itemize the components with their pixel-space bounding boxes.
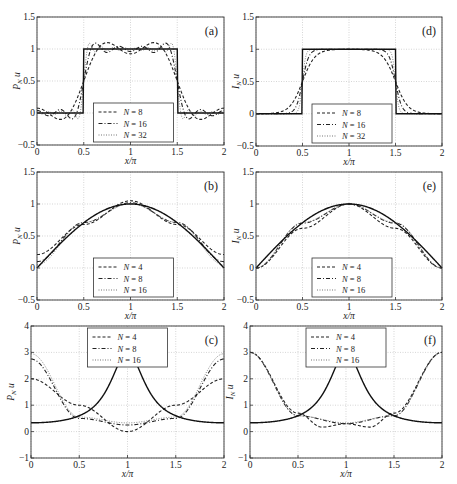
x-tick-label: 1.5 bbox=[171, 147, 183, 157]
x-tick-label: 2 bbox=[222, 302, 227, 312]
panel-label: (c) bbox=[205, 333, 218, 347]
figure: 00.511.52−0.500.511.5x/πPN u(a)N = 8N = … bbox=[0, 0, 457, 484]
x-tick-label: 2 bbox=[440, 302, 445, 312]
y-tick-label: 0.5 bbox=[23, 76, 35, 86]
legend-entry: N = 16 bbox=[341, 285, 365, 295]
legend-entry: N = 4 bbox=[335, 332, 356, 342]
legend-entry: N = 8 bbox=[123, 274, 143, 284]
panel-label: (b) bbox=[204, 179, 218, 193]
y-axis-label: PN u bbox=[6, 383, 18, 402]
x-tick-label: 2 bbox=[222, 147, 227, 157]
legend-entry: N = 32 bbox=[123, 130, 147, 140]
panel-a: 00.511.52−0.500.511.5x/πPN u(a)N = 8N = … bbox=[12, 12, 227, 166]
x-tick-label: 0.5 bbox=[73, 460, 85, 470]
y-axis-label: IN u bbox=[225, 384, 237, 400]
x-tick-label: 0 bbox=[29, 460, 34, 470]
panel-c: 00.511.52−101234x/πPN u(c)N = 4N = 8N = … bbox=[6, 321, 227, 479]
x-tick-label: 0.5 bbox=[78, 147, 90, 157]
y-tick-label: 0.5 bbox=[242, 231, 254, 241]
legend-entry: N = 16 bbox=[123, 119, 147, 129]
y-tick-label: 1 bbox=[249, 44, 254, 54]
y-tick-label: −1 bbox=[19, 453, 29, 463]
y-tick-label: 1 bbox=[249, 199, 254, 209]
x-tick-label: 2 bbox=[222, 460, 227, 470]
legend: N = 4N = 8N = 16 bbox=[88, 328, 168, 367]
y-axis-label: PN u bbox=[12, 227, 24, 246]
y-tick-label: 0 bbox=[30, 108, 35, 118]
panel-label: (e) bbox=[423, 179, 436, 193]
y-tick-label: 3 bbox=[243, 347, 248, 357]
y-tick-label: 0.5 bbox=[242, 77, 254, 87]
y-tick-label: −0.5 bbox=[237, 141, 254, 151]
x-axis-label: x/π bbox=[339, 469, 352, 479]
legend-entry: N = 8 bbox=[335, 344, 355, 354]
panel-label: (d) bbox=[422, 24, 436, 38]
panel-e: 00.511.52−0.500.511.5x/πIN u(e)N = 4N = … bbox=[231, 167, 445, 321]
x-axis-label: x/π bbox=[124, 156, 137, 166]
legend: N = 8N = 16N = 32 bbox=[312, 104, 392, 143]
legend-entry: N = 16 bbox=[117, 355, 141, 365]
x-tick-label: 1.5 bbox=[390, 148, 402, 158]
x-axis-label: x/π bbox=[342, 311, 355, 321]
legend-entry: N = 16 bbox=[123, 285, 147, 295]
legend-entry: N = 8 bbox=[341, 274, 361, 284]
x-tick-label: 1.5 bbox=[388, 460, 400, 470]
legend-entry: N = 16 bbox=[335, 355, 359, 365]
x-tick-label: 1.5 bbox=[390, 302, 402, 312]
x-tick-label: 0 bbox=[35, 147, 40, 157]
y-tick-label: 1.5 bbox=[23, 12, 35, 22]
y-tick-label: 0 bbox=[249, 263, 254, 273]
y-tick-label: 0.5 bbox=[23, 231, 35, 241]
y-tick-label: 0 bbox=[249, 109, 254, 119]
legend: N = 8N = 16N = 32 bbox=[94, 103, 174, 142]
legend-entry: N = 4 bbox=[123, 262, 144, 272]
y-axis-label: PN u bbox=[12, 72, 24, 91]
x-tick-label: 0 bbox=[248, 460, 253, 470]
legend-entry: N = 8 bbox=[123, 107, 143, 117]
x-tick-label: 0 bbox=[254, 148, 259, 158]
x-tick-label: 0 bbox=[254, 302, 259, 312]
legend: N = 4N = 8N = 16 bbox=[94, 258, 174, 297]
x-tick-label: 2 bbox=[440, 148, 445, 158]
y-tick-label: 2 bbox=[243, 374, 248, 384]
y-tick-label: 0 bbox=[24, 427, 29, 437]
y-tick-label: 1 bbox=[243, 400, 248, 410]
y-tick-label: 1.5 bbox=[242, 12, 254, 22]
panel-label: (a) bbox=[205, 24, 218, 38]
panel-f: 00.511.52−101234x/πIN u(f)N = 4N = 8N = … bbox=[225, 321, 445, 479]
panel-d: 00.511.52−0.500.511.5x/πIN u(d)N = 8N = … bbox=[231, 12, 445, 167]
legend: N = 4N = 8N = 16 bbox=[306, 328, 386, 367]
x-axis-label: x/π bbox=[342, 157, 355, 167]
panel-b: 00.511.52−0.500.511.5x/πPN u(b)N = 4N = … bbox=[12, 167, 227, 321]
y-tick-label: −1 bbox=[238, 453, 248, 463]
y-tick-label: 1 bbox=[24, 400, 29, 410]
legend-entry: N = 32 bbox=[341, 131, 365, 141]
legend-entry: N = 4 bbox=[117, 332, 138, 342]
x-tick-label: 0.5 bbox=[297, 148, 309, 158]
legend-entry: N = 16 bbox=[341, 120, 365, 130]
x-axis-label: x/π bbox=[124, 311, 137, 321]
x-tick-label: 1.5 bbox=[171, 302, 183, 312]
x-tick-label: 0.5 bbox=[297, 302, 309, 312]
legend-entry: N = 8 bbox=[341, 108, 361, 118]
x-tick-label: 2 bbox=[440, 460, 445, 470]
x-tick-label: 1.5 bbox=[170, 460, 182, 470]
y-tick-label: −0.5 bbox=[18, 140, 35, 150]
x-tick-label: 0.5 bbox=[292, 460, 304, 470]
y-tick-label: 2 bbox=[24, 374, 29, 384]
y-tick-label: 4 bbox=[24, 321, 29, 331]
y-tick-label: 0 bbox=[30, 263, 35, 273]
y-tick-label: 1 bbox=[30, 44, 35, 54]
y-tick-label: 3 bbox=[24, 347, 29, 357]
panel-label: (f) bbox=[424, 333, 436, 347]
y-tick-label: 1 bbox=[30, 199, 35, 209]
x-tick-label: 0 bbox=[35, 302, 40, 312]
y-tick-label: 4 bbox=[243, 321, 248, 331]
y-tick-label: 0 bbox=[243, 427, 248, 437]
x-tick-label: 0.5 bbox=[78, 302, 90, 312]
legend: N = 4N = 8N = 16 bbox=[312, 258, 392, 297]
x-axis-label: x/π bbox=[121, 469, 134, 479]
y-tick-label: −0.5 bbox=[237, 295, 254, 305]
y-tick-label: −0.5 bbox=[18, 295, 35, 305]
y-tick-label: 1.5 bbox=[23, 167, 35, 177]
